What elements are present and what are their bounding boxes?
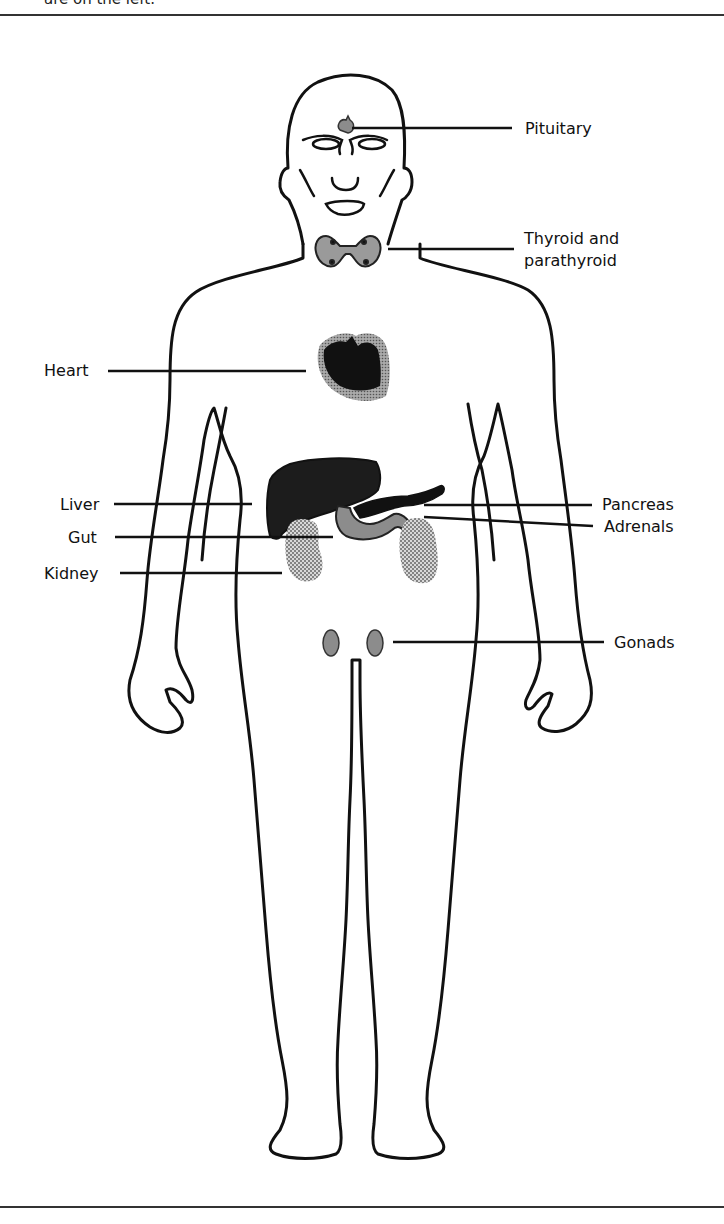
face-features [300, 136, 394, 215]
label-thyroid-line1: Thyroid and [524, 229, 619, 248]
label-pancreas: Pancreas [602, 495, 674, 514]
label-liver: Liver [60, 495, 99, 514]
pituitary-gland [338, 116, 353, 133]
head-outline [280, 75, 412, 244]
kidney-left [285, 519, 322, 581]
gonad-left [323, 630, 339, 656]
inner-arm-right [468, 404, 494, 560]
label-gut: Gut [68, 528, 97, 547]
heart-organ [318, 333, 390, 401]
label-thyroid-line2: parathyroid [524, 251, 617, 270]
label-pituitary: Pituitary [525, 119, 592, 138]
body-diagram [0, 0, 724, 1224]
gonad-right [367, 630, 383, 656]
thyroid-gland [315, 236, 380, 266]
label-kidney: Kidney [44, 564, 99, 583]
kidney-right [400, 518, 438, 583]
label-heart: Heart [44, 361, 89, 380]
label-gonads: Gonads [614, 633, 675, 652]
label-adrenals: Adrenals [604, 517, 674, 536]
